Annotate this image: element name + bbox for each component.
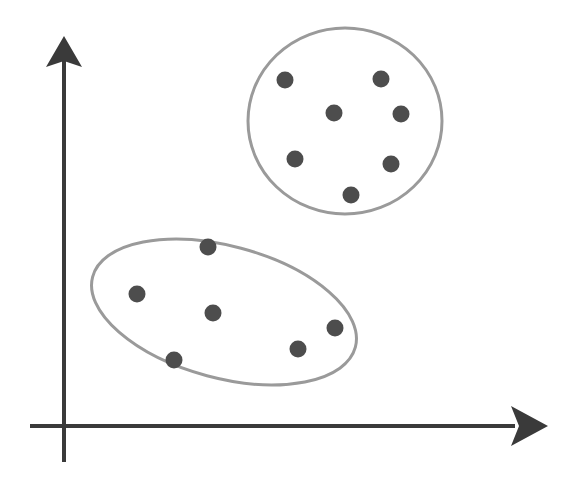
data-point xyxy=(205,305,222,322)
lower-left-cluster xyxy=(76,213,373,411)
data-point xyxy=(393,106,410,123)
clusters xyxy=(76,28,442,411)
data-point xyxy=(166,352,183,369)
data-point xyxy=(287,151,304,168)
x-axis-arrow-icon xyxy=(511,406,548,446)
cluster-boundary xyxy=(248,28,442,214)
data-point xyxy=(129,286,146,303)
data-point xyxy=(373,71,390,88)
cluster-diagram xyxy=(0,0,573,488)
axes xyxy=(30,36,548,462)
data-point xyxy=(290,341,307,358)
data-point xyxy=(200,239,217,256)
data-point xyxy=(326,105,343,122)
data-point xyxy=(277,72,294,89)
upper-right-cluster xyxy=(248,28,442,214)
data-point xyxy=(327,320,344,337)
data-point xyxy=(343,187,360,204)
cluster-boundary xyxy=(76,213,373,411)
data-point xyxy=(383,156,400,173)
